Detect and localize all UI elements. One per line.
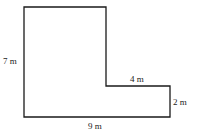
label-bottom-width: 9 m (88, 121, 102, 131)
label-left-height: 7 m (3, 56, 17, 66)
label-inner-top-width: 4 m (130, 74, 144, 84)
l-shape-diagram: 7 m 4 m 2 m 9 m (0, 0, 200, 139)
l-shape-outline (24, 7, 170, 117)
label-right-height: 2 m (173, 97, 187, 107)
